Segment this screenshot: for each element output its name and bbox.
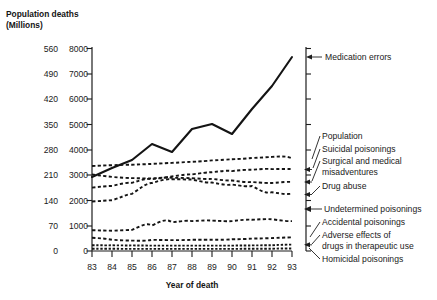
series-adverse-effects-drugs: [92, 245, 292, 246]
x-tick-90: 90: [227, 262, 237, 272]
label-surgical-medical-line2: misadventures: [322, 167, 378, 177]
callout-medication-errors: Medication errors: [306, 52, 391, 62]
series-population: [92, 157, 292, 166]
label-suicidal-poisonings: Suicidal poisonings: [322, 144, 396, 154]
chart-figure: Population deaths (Millions) 560 490 420…: [0, 0, 437, 300]
count-tick-3000: 3000: [69, 170, 88, 180]
x-tick-93: 93: [287, 262, 297, 272]
label-surgical-medical-line1: Surgical and medical: [322, 156, 402, 166]
left-tick-420: 420: [44, 94, 59, 104]
left-tick-70: 70: [48, 221, 58, 231]
left-axis-tick-labels: 560 490 420 350 280 210 140 70 0: [44, 44, 59, 256]
label-homicidal-poisonings: Homicidal poisonings: [322, 254, 403, 264]
label-adverse-effects-line1: Adverse effects of: [322, 230, 391, 240]
count-tick-5000: 5000: [69, 120, 88, 130]
left-tick-490: 490: [44, 69, 59, 79]
label-adverse-effects-line2: drugs in therapeutic use: [322, 241, 414, 251]
left-tick-350: 350: [44, 120, 59, 130]
count-tick-7000: 7000: [69, 69, 88, 79]
chart-title-line1: Population deaths: [6, 9, 79, 19]
x-tick-85: 85: [127, 262, 137, 272]
count-tick-2000: 2000: [69, 196, 88, 206]
series-surgical-medical-misadventures: [92, 178, 292, 188]
left-tick-280: 280: [44, 145, 59, 155]
x-axis-title: Year of death: [166, 280, 219, 290]
left-tick-560: 560: [44, 44, 59, 54]
count-tick-4000: 4000: [69, 145, 88, 155]
label-drug-abuse: Drug abuse: [322, 181, 367, 191]
label-undetermined-poisonings: Undetermined poisonings: [324, 204, 421, 214]
series-medication-errors: [92, 57, 292, 177]
series-undetermined-poisonings: [92, 219, 292, 231]
right-axis-ticks: [306, 49, 311, 252]
label-accidental-poisonings: Accidental poisonings: [322, 217, 405, 227]
count-tick-8000: 8000: [69, 44, 88, 54]
x-tick-92: 92: [267, 262, 277, 272]
chart-plot-svg: Population deaths (Millions) 560 490 420…: [0, 0, 437, 300]
callout-undetermined-poisonings: Undetermined poisonings: [304, 204, 421, 214]
count-tick-1000: 1000: [69, 221, 88, 231]
count-tick-6000: 6000: [69, 94, 88, 104]
left-tick-140: 140: [44, 196, 59, 206]
left-tick-210: 210: [44, 170, 59, 180]
x-tick-88: 88: [187, 262, 197, 272]
count-axis-tick-labels: 8000 7000 6000 5000 4000 3000 2000 1000 …: [69, 44, 88, 256]
chart-title-line2: (Millions): [6, 20, 43, 30]
x-tick-84: 84: [107, 262, 117, 272]
callout-adverse-effects-drugs: Adverse effects of drugs in therapeutic …: [304, 230, 414, 251]
label-population: Population: [322, 131, 363, 141]
callout-drug-abuse: Drug abuse: [304, 181, 367, 197]
x-tick-83: 83: [87, 262, 97, 272]
series-suicidal-poisonings: [92, 169, 292, 179]
left-tick-0: 0: [53, 246, 58, 256]
series-accidental-poisonings: [92, 237, 292, 240]
x-axis-tick-labels: 83 84 85 86 87 88 89 90 91 92 93: [87, 262, 297, 272]
x-tick-87: 87: [167, 262, 177, 272]
x-tick-86: 86: [147, 262, 157, 272]
label-medication-errors: Medication errors: [325, 52, 391, 62]
x-axis-ticks: [92, 251, 292, 257]
x-tick-89: 89: [207, 262, 217, 272]
x-tick-91: 91: [247, 262, 257, 272]
